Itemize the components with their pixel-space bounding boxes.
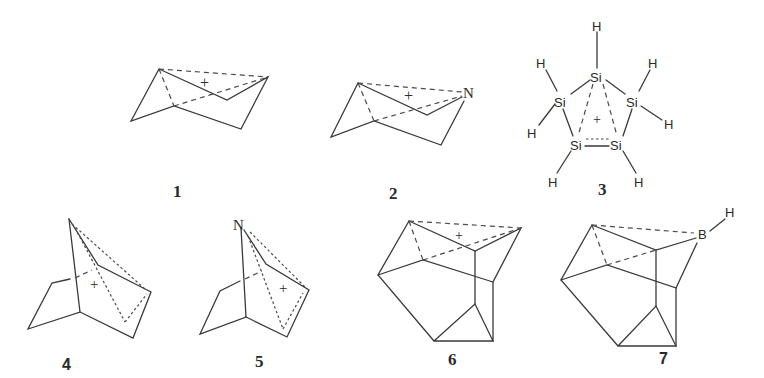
structure-5-bonds [200,228,246,334]
structure-7-bonds [561,225,676,346]
structure-7-label: 7 [659,350,668,367]
structure-6-bonds [378,260,493,282]
structure-2-label: 2 [389,184,398,203]
bond [623,109,632,136]
structure-4-charge: + [90,276,98,292]
bond [563,109,573,136]
dotted-bond [72,224,145,289]
dashed-bond [578,84,593,136]
structure-2-charge: + [404,87,413,104]
structure-1: + 1 [131,69,268,201]
structure-6-charge: + [455,228,463,243]
hydrogen-atom: H [592,19,601,34]
structure-5-nitrogen-atom: N [233,217,244,233]
bond [571,80,590,94]
structure-3: H Si Si Si Si Si H H H H H H + 3 [527,19,673,199]
structure-4-label: 4 [62,356,71,373]
structure-2: N + 2 [331,83,474,203]
dotted-bond [250,232,305,287]
structure-5: N + 5 [200,217,309,371]
hydrogen-atom: H [548,175,557,190]
structure-2-dashed-bond [374,96,462,121]
structure-1-label: 1 [173,182,182,201]
dashed-bond [592,225,694,233]
silicon-atom: Si [554,95,566,110]
bond [639,70,650,91]
structure-6: + 6 [378,221,521,369]
bond [710,219,725,231]
structure-2-ring-bonds [331,83,464,145]
dotted-bond [125,294,147,322]
structure-5-label: 5 [255,352,264,371]
silicon-atom: Si [590,70,602,85]
structure-7: B H 7 [561,205,734,367]
structure-7-hydrogen-atom: H [725,205,734,220]
bond [641,106,662,120]
bond [606,80,625,94]
bond [539,104,555,125]
structure-2-nitrogen-atom: N [463,85,474,101]
dashed-bond [607,250,656,265]
bond [557,151,571,173]
structure-1-charge: + [200,74,209,91]
structure-6-bonds [409,221,521,341]
hydrogen-atom: H [664,117,673,132]
dashed-bond [603,84,617,136]
structure-7-bonds [592,225,696,250]
hydrogen-atom: H [527,126,536,141]
structure-4: + 4 [28,219,151,373]
hydrogen-atom: H [648,56,657,71]
bond [676,243,697,288]
silicon-atom: Si [570,138,582,153]
structure-3-charge: + [593,112,601,127]
structure-5-charge: + [279,280,287,296]
dashed-bond [245,271,262,279]
structure-6-bonds [378,221,493,341]
hydrogen-atom: H [634,175,643,190]
dashed-bond [592,225,607,265]
structure-6-label: 6 [448,350,457,369]
structure-5-bonds [244,230,309,337]
chemical-structures-figure: + 1 N + 2 H Si Si Si Si Si H H [0,0,764,378]
dotted-bond [248,236,283,329]
structure-4-bonds [69,219,151,338]
bond [546,70,557,91]
silicon-atom: Si [626,95,638,110]
dashed-bond [409,221,521,228]
bond [623,151,636,173]
structure-3-label: 3 [598,180,607,199]
structure-1-dashed-bond [174,77,268,106]
structure-7-boron-atom: B [698,227,707,242]
structure-7-bonds [561,265,676,346]
structure-4-bonds [28,219,80,329]
hydrogen-atom: H [536,56,545,71]
silicon-atom: Si [610,138,622,153]
